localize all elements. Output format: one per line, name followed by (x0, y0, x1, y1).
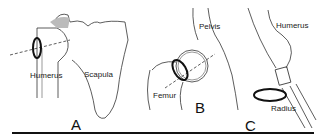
joint-rotation-diagram (0, 0, 319, 135)
panel-a-shoulder-drawing (10, 14, 128, 118)
label-humerus-c: Humerus (276, 22, 308, 30)
panel-letter-a: A (71, 117, 81, 132)
label-scapula: Scapula (84, 71, 113, 79)
label-humerus-a: Humerus (30, 72, 62, 80)
label-radius: Radius (271, 105, 296, 113)
panel-letter-c: C (245, 118, 256, 133)
label-femur: Femur (153, 92, 176, 100)
label-pelvis: Pelvis (199, 23, 220, 31)
panel-letter-b: B (195, 100, 205, 115)
